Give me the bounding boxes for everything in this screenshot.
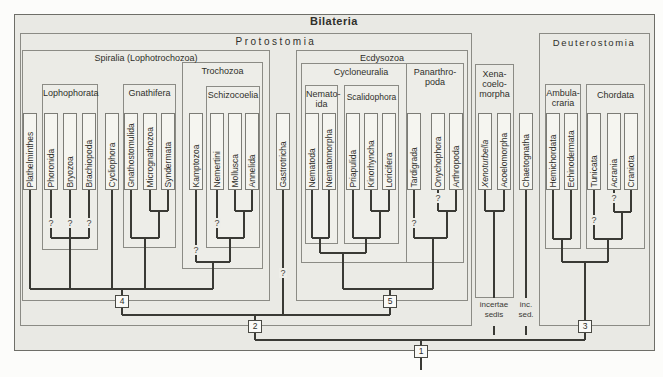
tree-protostomia [122,190,390,340]
clade-node-4: 4 [115,295,129,308]
uncertainty-mark-gastrotricha: ? [279,268,287,278]
uncertainty-mark-acrania: ? [610,193,618,203]
uncertainty-mark-nemertini: ? [213,218,221,228]
bilateria-phylogeny-figure: Bilateria Protostomia Deuterostomia Spir… [0,0,663,377]
uncertainty-mark-tardigrada: ? [410,218,418,228]
tree-lines [0,0,663,377]
uncertainty-mark-brachiopoda: ? [85,218,93,228]
clade-node-1: 1 [414,345,428,358]
clade-node-2: 2 [248,320,262,333]
clade-node-5: 5 [383,295,397,308]
tree-spiralia [30,190,252,315]
uncertainty-mark-bryozoa: ? [66,218,74,228]
inc-sed-line2: sed. [506,310,546,320]
uncertainty-mark-tunicata: ? [590,215,598,225]
clade-node-3: 3 [578,320,592,333]
tree-deuterostomia [553,190,631,340]
uncertainty-mark-kamptozoa: ? [192,245,200,255]
inc-sed-annotation: inc. sed. [506,300,546,320]
uncertainty-mark-phoronida: ? [47,218,55,228]
inc-sed-line1: inc. [506,300,546,310]
uncertainty-mark-onychophora: ? [434,193,442,203]
